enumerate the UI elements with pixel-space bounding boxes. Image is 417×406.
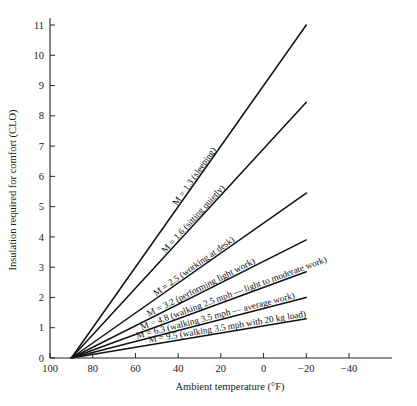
y-tick-label: 5 xyxy=(39,201,44,212)
y-tick-label: 4 xyxy=(39,232,45,243)
y-tick-label: 8 xyxy=(39,110,44,121)
insulation-vs-temperature-chart: 01234567891011100806040200−20−40 M = 1.3… xyxy=(0,0,417,406)
y-tick-label: 0 xyxy=(39,353,44,364)
y-tick-label: 2 xyxy=(39,292,44,303)
y-tick-label: 6 xyxy=(39,171,44,182)
y-tick-label: 10 xyxy=(34,50,45,61)
x-tick-label: 0 xyxy=(261,363,266,374)
x-tick-label: 80 xyxy=(87,363,98,374)
x-tick-label: −20 xyxy=(298,363,314,374)
x-tick-label: 60 xyxy=(130,363,141,374)
y-tick-label: 7 xyxy=(39,141,44,152)
x-tick-label: 100 xyxy=(42,363,58,374)
y-tick-label: 9 xyxy=(39,80,44,91)
y-axis-title: Insulation required for comfort (CLO) xyxy=(7,109,19,270)
y-tick-label: 1 xyxy=(39,322,44,333)
y-tick-label: 3 xyxy=(39,262,44,273)
series-annotations-group: M = 1.3 (sleeping)M = 1.6 (sitting quiet… xyxy=(135,145,328,344)
y-tick-label: 11 xyxy=(34,20,44,31)
x-tick-label: 40 xyxy=(173,363,184,374)
chart-figure: 01234567891011100806040200−20−40 M = 1.3… xyxy=(0,0,417,406)
x-axis-title: Ambient temperature (°F) xyxy=(175,381,285,393)
x-tick-label: −40 xyxy=(341,363,357,374)
x-tick-label: 20 xyxy=(216,363,227,374)
